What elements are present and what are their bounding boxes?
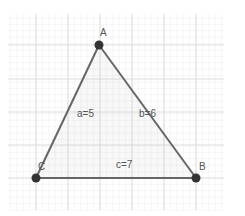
vertex-c-label: C (38, 162, 45, 172)
side-b-label: b=6 (139, 109, 156, 119)
side-c-label: c=7 (116, 160, 132, 170)
vertex-b-label: B (199, 162, 206, 172)
vertex-a-label: A (100, 28, 107, 38)
vertex-a-point[interactable] (95, 41, 104, 50)
side-a-label: a=5 (77, 109, 94, 119)
geometry-canvas[interactable] (0, 0, 245, 216)
vertex-c-point[interactable] (32, 174, 41, 183)
vertex-b-point[interactable] (192, 174, 201, 183)
